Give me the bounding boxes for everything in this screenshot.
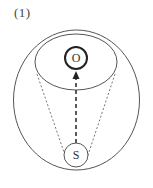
arrowhead-icon (73, 71, 80, 79)
right-dotted-line (87, 74, 115, 158)
node-s-label: S (70, 147, 82, 163)
diagram-canvas: (1) O S (0, 0, 153, 188)
left-dotted-line (37, 74, 66, 158)
node-o-label: O (70, 50, 82, 66)
